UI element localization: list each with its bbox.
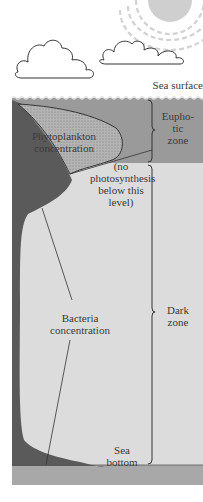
bacteria-line-1: Bacteria xyxy=(40,312,120,324)
euphotic-line-3: zone xyxy=(158,134,198,146)
euphotic-line-2: tic xyxy=(158,122,198,134)
bacteria-label: Bacteria concentration xyxy=(40,312,120,336)
cloud-icon xyxy=(15,40,93,78)
seabottom-line-2: bottom xyxy=(100,456,144,468)
sea-floor xyxy=(12,465,203,485)
no-photosynthesis-label: (no photosynthesis below this level) xyxy=(90,160,152,208)
sea-surface-label: Sea surface xyxy=(140,79,203,91)
dark-line-2: zone xyxy=(158,316,198,328)
nophoto-line-1: (no xyxy=(90,160,152,172)
sun-icon xyxy=(120,0,203,50)
nophoto-line-4: level) xyxy=(90,196,152,208)
nophoto-line-3: below this xyxy=(90,184,152,196)
euphotic-zone-label: Eupho- tic zone xyxy=(158,110,198,146)
phyto-line-2: concentration xyxy=(22,142,106,154)
diagram-canvas xyxy=(0,0,203,502)
bacteria-line-2: concentration xyxy=(40,324,120,336)
sea-bottom-label: Sea bottom xyxy=(100,444,144,468)
cloud-icon xyxy=(100,41,184,64)
dark-line-1: Dark xyxy=(158,304,198,316)
dark-zone-label: Dark zone xyxy=(158,304,198,328)
euphotic-line-1: Eupho- xyxy=(158,110,198,122)
nophoto-line-2: photosynthesis xyxy=(90,172,152,184)
phyto-line-1: Phytoplankton xyxy=(22,130,106,142)
phytoplankton-label: Phytoplankton concentration xyxy=(22,130,106,154)
seabottom-line-1: Sea xyxy=(100,444,144,456)
